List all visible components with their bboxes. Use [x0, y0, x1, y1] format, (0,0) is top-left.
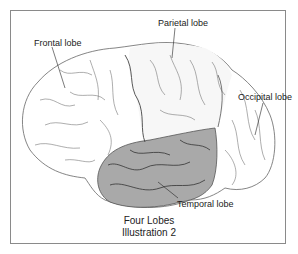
- parietal-lobe-label: Parietal lobe: [158, 18, 208, 28]
- caption-subtitle: Illustration 2: [0, 227, 298, 239]
- illustration-caption: Four Lobes Illustration 2: [0, 215, 298, 239]
- frontal-lobe-label: Frontal lobe: [34, 38, 82, 48]
- caption-title: Four Lobes: [0, 215, 298, 227]
- temporal-lobe-label: Temporal lobe: [177, 199, 234, 209]
- occipital-lobe-label: Occipital lobe: [238, 92, 292, 102]
